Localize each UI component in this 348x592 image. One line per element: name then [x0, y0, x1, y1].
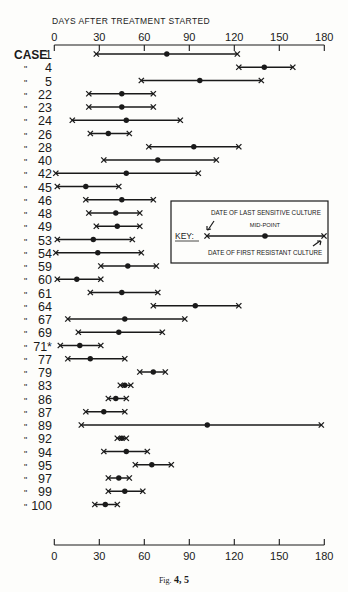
ditto-mark: " — [24, 409, 27, 419]
case-row: "77 — [24, 353, 127, 367]
case-row: "87 — [24, 406, 127, 420]
midpoint-dot — [77, 343, 82, 348]
legend-title: KEY: — [175, 231, 194, 241]
x-tick-label: 180 — [315, 31, 333, 43]
top-x-axis: 0306090120150180 — [51, 31, 333, 51]
midpoint-dot — [193, 303, 198, 308]
case-row: "89 — [24, 419, 324, 433]
midpoint-dot — [95, 250, 100, 255]
midpoint-dot — [113, 396, 118, 401]
midpoint-dot — [164, 51, 169, 56]
case-number: 26 — [38, 128, 52, 142]
midpoint-dot — [124, 449, 129, 454]
case-row: "22 — [24, 88, 156, 102]
midpoint-dot — [115, 224, 120, 229]
ditto-mark: " — [24, 369, 27, 379]
x-tick-label: 180 — [315, 550, 333, 562]
ditto-mark: " — [24, 104, 27, 114]
x-tick-label: 60 — [138, 31, 150, 43]
case-number: 1 — [45, 48, 52, 62]
x-tick-label: 30 — [93, 31, 105, 43]
case-row: "67 — [24, 313, 187, 327]
case-number: 95 — [38, 459, 52, 473]
case-row: "5 — [24, 75, 264, 89]
case-row: "60 — [24, 273, 103, 287]
bottom-x-axis: 0306090120150180 — [51, 539, 333, 562]
case-row: "46 — [24, 194, 156, 208]
case-row: "59 — [24, 260, 159, 274]
midpoint-dot — [116, 330, 121, 335]
case-row: "48 — [24, 207, 142, 221]
case-row: "61 — [24, 287, 160, 301]
midpoint-dot — [101, 409, 106, 414]
midpoint-dot — [149, 462, 154, 467]
ditto-mark: " — [24, 250, 27, 260]
caption-numbers: 4, 5 — [174, 574, 189, 585]
ditto-mark: " — [24, 435, 27, 445]
ditto-mark: " — [24, 502, 27, 512]
ditto-mark: " — [24, 223, 27, 233]
case-number: 46 — [38, 194, 52, 208]
midpoint-dot — [106, 131, 111, 136]
x-tick-label: 120 — [225, 31, 243, 43]
case-row: "99 — [24, 485, 145, 499]
ditto-mark: " — [24, 210, 27, 220]
case-number: 79 — [38, 366, 52, 380]
case-row: "28 — [24, 141, 241, 155]
ditto-mark: " — [24, 475, 27, 485]
case-row: "42 — [24, 167, 201, 181]
case-number: 64 — [38, 300, 52, 314]
case-number: 45 — [38, 181, 52, 195]
ditto-mark: " — [24, 382, 27, 392]
x-tick-label: 90 — [183, 31, 195, 43]
case-number: 71* — [33, 340, 52, 354]
ditto-mark: " — [24, 131, 27, 141]
case-row: "97 — [24, 472, 132, 486]
midpoint-dot — [88, 356, 93, 361]
ditto-mark: " — [24, 488, 27, 498]
legend-end-label: DATE OF FIRST RESISTANT CULTURE — [208, 249, 322, 256]
case-prefix-label: CASE — [14, 48, 47, 62]
midpoint-dot — [124, 171, 129, 176]
case-row: "54 — [24, 247, 144, 261]
x-tick-label: 0 — [51, 31, 57, 43]
case-row: "26 — [24, 128, 132, 142]
ditto-mark: " — [24, 356, 27, 366]
case-number: 87 — [38, 406, 52, 420]
arrow-icon — [208, 221, 214, 230]
case-number: 5 — [45, 75, 52, 89]
midpoint-dot — [122, 316, 127, 321]
case-number: 49 — [38, 220, 52, 234]
case-number: 54 — [38, 247, 52, 261]
case-row: "69 — [24, 326, 165, 340]
x-tick-label: 30 — [93, 550, 105, 562]
midpoint-dot — [119, 290, 124, 295]
ditto-mark: " — [24, 78, 27, 88]
midpoint-dot — [205, 422, 210, 427]
legend-key: DATE OF LAST SENSITIVE CULTUREMID-POINTD… — [171, 201, 328, 263]
ditto-mark: " — [24, 290, 27, 300]
case-number: 60 — [38, 273, 52, 287]
case-number: 83 — [38, 379, 52, 393]
case-row: "71* — [24, 340, 103, 354]
ditto-mark: " — [24, 144, 27, 154]
ditto-mark: " — [24, 157, 27, 167]
midpoint-dot — [91, 237, 96, 242]
midpoint-dot — [116, 475, 121, 480]
case-number: 89 — [38, 419, 52, 433]
midpoint-dot — [119, 104, 124, 109]
midpoint-dot — [74, 277, 79, 282]
case-number: 92 — [38, 432, 52, 446]
case-number: 24 — [38, 114, 52, 128]
midpoint-dot — [191, 144, 196, 149]
ditto-mark: " — [24, 303, 27, 313]
case-row: "45 — [24, 181, 121, 195]
case-number: 94 — [38, 446, 52, 460]
midpoint-dot — [113, 210, 118, 215]
case-number: 100 — [31, 499, 52, 513]
case-row: "23 — [24, 101, 156, 115]
ditto-mark: " — [24, 170, 27, 180]
case-row: "64 — [24, 300, 241, 314]
case-number: 99 — [38, 485, 52, 499]
legend-start-label: DATE OF LAST SENSITIVE CULTURE — [211, 209, 321, 216]
